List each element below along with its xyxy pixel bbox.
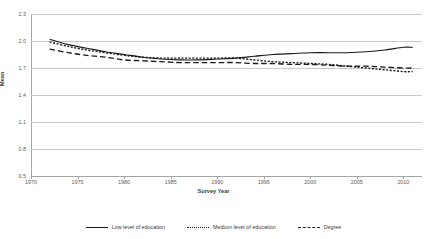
legend-swatch-solid <box>86 227 108 228</box>
legend-label: Degree <box>324 224 342 230</box>
series-layer <box>31 14 422 176</box>
x-axis-title: Survey Year <box>0 188 427 194</box>
plot-area <box>31 14 422 176</box>
chart-legend: Low level of educationMedium level of ed… <box>0 220 427 234</box>
x-tick-label: 1995 <box>249 179 279 185</box>
y-tick-label: 1.4 <box>0 92 26 98</box>
y-tick-label: 2.0 <box>0 38 26 44</box>
y-tick-label: 1.1 <box>0 119 26 125</box>
x-axis-line <box>31 176 422 177</box>
y-tick-label: 1.7 <box>0 65 26 71</box>
chart-title <box>0 0 427 2</box>
x-tick-label: 2000 <box>295 179 325 185</box>
y-tick-label: 0.8 <box>0 146 26 152</box>
x-tick-label: 1985 <box>156 179 186 185</box>
legend-label: Low level of education <box>112 224 165 230</box>
y-tick-label: 2.3 <box>0 11 26 17</box>
x-tick-label: 2010 <box>388 179 418 185</box>
legend-swatch-dashed <box>298 227 320 228</box>
y-axis-title: Mean <box>0 72 5 86</box>
legend-label: Medium level of education <box>213 224 276 230</box>
x-tick-label: 1980 <box>109 179 139 185</box>
legend-item[interactable]: Low level of education <box>86 224 165 230</box>
x-tick-label: 1990 <box>202 179 232 185</box>
legend-item[interactable]: Medium level of education <box>187 224 276 230</box>
x-tick-label: 1975 <box>63 179 93 185</box>
x-tick-label: 1970 <box>16 179 46 185</box>
legend-item[interactable]: Degree <box>298 224 342 230</box>
x-tick-label: 2005 <box>342 179 372 185</box>
legend-swatch-dotted <box>187 227 209 228</box>
line-chart: Mean 0.50.81.11.41.72.02.3 1970197519801… <box>0 0 427 239</box>
